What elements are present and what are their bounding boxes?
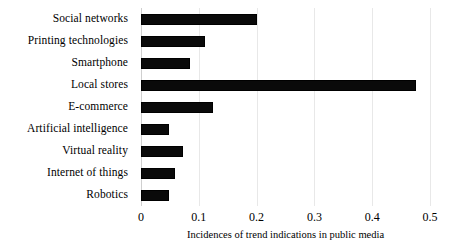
bar-chart: Social networks Printing technologies Sm… xyxy=(0,0,458,250)
x-axis-title: Incidences of trend indications in publi… xyxy=(141,228,430,242)
bar-slot xyxy=(141,118,430,140)
y-axis-label-smartphone: Smartphone xyxy=(0,52,134,74)
bar-series xyxy=(141,8,430,206)
gridline-0.5 xyxy=(430,8,431,206)
x-axis-tick-0.5: 0.5 xyxy=(423,208,438,226)
bar xyxy=(141,80,416,91)
y-axis-label-robotics: Robotics xyxy=(0,184,134,206)
y-axis-label-artificial-intelligence: Artificial intelligence xyxy=(0,118,134,140)
y-axis-label-e-commerce: E-commerce xyxy=(0,96,134,118)
bar xyxy=(141,58,190,69)
x-axis-tick-0.2: 0.2 xyxy=(249,208,264,226)
bar-slot xyxy=(141,96,430,118)
plot-area xyxy=(141,8,430,206)
x-axis-tick-0.3: 0.3 xyxy=(307,208,322,226)
bar xyxy=(141,36,205,47)
bar xyxy=(141,124,169,135)
bar xyxy=(141,168,175,179)
y-axis-category-labels: Social networks Printing technologies Sm… xyxy=(0,8,134,206)
bar-slot xyxy=(141,184,430,206)
bar-slot xyxy=(141,30,430,52)
x-axis-tick-0: 0 xyxy=(138,208,144,226)
bar-slot xyxy=(141,140,430,162)
y-axis-label-social-networks: Social networks xyxy=(0,8,134,30)
y-axis-label-printing-technologies: Printing technologies xyxy=(0,30,134,52)
bar-slot xyxy=(141,52,430,74)
bar-slot xyxy=(141,74,430,96)
y-axis-label-local-stores: Local stores xyxy=(0,74,134,96)
bar xyxy=(141,146,183,157)
bar-slot xyxy=(141,162,430,184)
y-axis-label-virtual-reality: Virtual reality xyxy=(0,140,134,162)
y-axis-label-internet-of-things: Internet of things xyxy=(0,162,134,184)
x-axis-tick-labels: 00.10.20.30.40.5 xyxy=(141,208,430,226)
bar xyxy=(141,102,213,113)
bar xyxy=(141,190,169,201)
bar xyxy=(141,14,257,25)
x-axis-tick-0.4: 0.4 xyxy=(365,208,380,226)
x-axis-tick-0.1: 0.1 xyxy=(191,208,206,226)
bar-slot xyxy=(141,8,430,30)
